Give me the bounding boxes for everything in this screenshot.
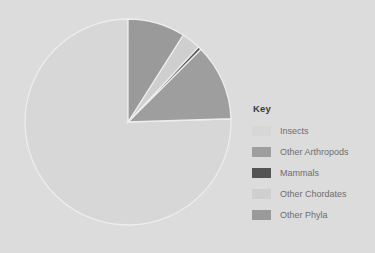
legend-label: Other Chordates <box>280 190 347 199</box>
legend-item: Other Phyla <box>250 205 375 226</box>
legend-label: Other Arthropods <box>280 148 349 157</box>
chart-legend: Key InsectsOther ArthropodsMammalsOther … <box>250 104 375 226</box>
pie-chart-figure: Key InsectsOther ArthropodsMammalsOther … <box>0 0 375 253</box>
legend-label: Other Phyla <box>280 211 328 220</box>
legend-label: Insects <box>280 127 309 136</box>
pie-plot-area <box>0 0 250 253</box>
legend-swatch <box>252 126 271 136</box>
pie-svg <box>0 0 250 253</box>
legend-item-list: InsectsOther ArthropodsMammalsOther Chor… <box>250 121 375 226</box>
legend-swatch <box>252 147 271 157</box>
pie-slice-group <box>25 19 231 225</box>
legend-item: Insects <box>250 121 375 142</box>
legend-item: Mammals <box>250 163 375 184</box>
legend-swatch <box>252 189 271 199</box>
legend-item: Other Chordates <box>250 184 375 205</box>
legend-title: Key <box>253 104 375 114</box>
legend-item: Other Arthropods <box>250 142 375 163</box>
legend-swatch <box>252 168 271 178</box>
legend-label: Mammals <box>280 169 319 178</box>
legend-swatch <box>252 210 271 220</box>
